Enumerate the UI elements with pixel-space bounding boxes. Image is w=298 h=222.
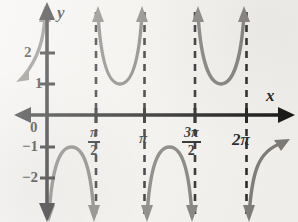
ytick-label-minus-1: −1 <box>22 139 38 154</box>
curve-arrow-c-up <box>92 6 104 22</box>
ytick-label-0: 0 <box>30 120 38 135</box>
x-axis-label: x <box>266 87 275 104</box>
xtick-label-pi-over-2: π 2 <box>88 126 100 158</box>
x-axis-arrow-right <box>278 107 295 123</box>
y-axis-label: y <box>57 4 65 21</box>
curve-arrow-i-down <box>243 205 255 222</box>
xtick-label-3pi-over-2: 3π 2 <box>182 126 201 158</box>
chart-canvas: y x 2 1 0 −1 −2 π 2 π 3π 2 2π <box>0 0 298 222</box>
ytick-label-2: 2 <box>24 45 32 60</box>
three-pi-over-2-denominator: 2 <box>182 141 201 158</box>
branch-halfpi-to-pi <box>98 14 142 84</box>
curve-arrow-e-down <box>141 205 153 222</box>
ytick-label-minus-2: −2 <box>22 170 38 185</box>
pi-over-2-denominator: 2 <box>88 141 100 158</box>
curve-arrow-b-down <box>88 205 100 222</box>
y-axis-arrow-up <box>39 2 55 20</box>
curve-arrow-d-up <box>136 6 148 22</box>
three-pi-over-2-numerator: 3π <box>182 126 201 141</box>
y-axis-arrow-down <box>39 203 55 222</box>
secant-graph-svg <box>0 0 298 222</box>
asymptote-lines <box>96 12 247 214</box>
branch-3halfpi-to-2pi <box>198 14 244 84</box>
ytick-label-1: 1 <box>35 76 43 91</box>
x-axis-arrow-left <box>14 107 31 123</box>
pi-over-2-numerator: π <box>88 126 100 141</box>
xtick-label-pi: π <box>139 131 147 146</box>
curve-arrow-h-up <box>238 6 250 22</box>
xtick-label-2pi: 2π <box>232 131 250 148</box>
